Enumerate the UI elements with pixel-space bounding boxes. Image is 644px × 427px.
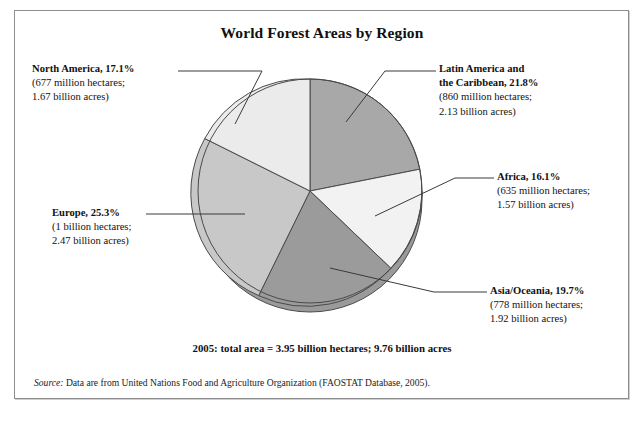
label-europe-head: Europe, 25.3% xyxy=(52,206,212,220)
label-europe: Europe, 25.3% (1 billion hectares; 2.47 … xyxy=(52,206,212,249)
label-latin-america-head2: the Caribbean, 21.8% xyxy=(439,76,614,90)
label-latin-america-head1: Latin America and xyxy=(439,62,614,76)
label-africa-head: Africa, 16.1% xyxy=(497,170,637,184)
leader-line-latin-america xyxy=(346,71,436,122)
label-latin-america-line1: (860 million hectares; xyxy=(439,90,614,104)
label-africa-line2: 1.57 billion acres) xyxy=(497,198,637,212)
label-europe-line2: 2.47 billion acres) xyxy=(52,234,212,248)
total-note: 2005: total area = 3.95 billion hectares… xyxy=(0,342,644,354)
label-asia-oceania: Asia/Oceania, 19.7% (778 million hectare… xyxy=(490,284,640,327)
label-latin-america-line2: 2.13 billion acres) xyxy=(439,105,614,119)
leader-line-asia-oceania xyxy=(330,268,487,292)
label-africa: Africa, 16.1% (635 million hectares; 1.5… xyxy=(497,170,637,213)
source-body: Data are from United Nations Food and Ag… xyxy=(63,377,429,388)
figure-root: World Forest Areas by Region xyxy=(0,0,644,427)
label-asia-oceania-head: Asia/Oceania, 19.7% xyxy=(490,284,640,298)
label-north-america-line1: (677 million hectares; xyxy=(32,76,202,90)
label-north-america: North America, 17.1% (677 million hectar… xyxy=(32,62,202,105)
leader-line-africa xyxy=(375,178,494,216)
source-label: Source: xyxy=(34,377,63,388)
label-asia-oceania-line2: 1.92 billion acres) xyxy=(490,312,640,326)
label-asia-oceania-line1: (778 million hectares; xyxy=(490,298,640,312)
source-note: Source: Data are from United Nations Foo… xyxy=(34,377,430,388)
label-africa-line1: (635 million hectares; xyxy=(497,184,637,198)
label-latin-america: Latin America and the Caribbean, 21.8% (… xyxy=(439,62,614,119)
label-north-america-line2: 1.67 billion acres) xyxy=(32,90,202,104)
label-north-america-head: North America, 17.1% xyxy=(32,62,202,76)
label-europe-line1: (1 billion hectares; xyxy=(52,220,212,234)
